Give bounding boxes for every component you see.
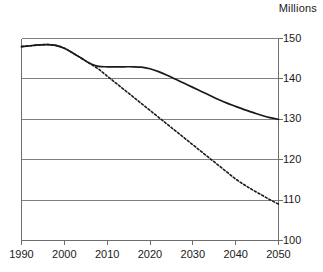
x-axis-tick-label-2030: 2030 [177,248,209,260]
chart-container: Millions 150140130120110100 199020002010… [0,0,323,272]
x-axis-tick-label-2010: 2010 [91,248,123,260]
y-axis-tick-label-130: 130 [283,112,301,124]
data-series [22,45,279,205]
x-axis-tick-label-2040: 2040 [220,248,252,260]
x-axis-tick-label-2020: 2020 [134,248,166,260]
y-axis-tick-label-150: 150 [283,32,301,44]
x-axis-tick-label-1990: 1990 [6,248,38,260]
series-line-solid-projection [22,45,279,120]
x-axis-tick-label-2050: 2050 [263,248,295,260]
y-axis-tick-label-100: 100 [283,234,301,246]
gridlines [22,39,279,201]
y-axis-tick-label-140: 140 [283,72,301,84]
plot-area [0,0,323,272]
y-axis-tick-label-120: 120 [283,153,301,165]
x-axis-tick-label-2000: 2000 [48,248,80,260]
y-axis-tick-label-110: 110 [283,193,301,205]
